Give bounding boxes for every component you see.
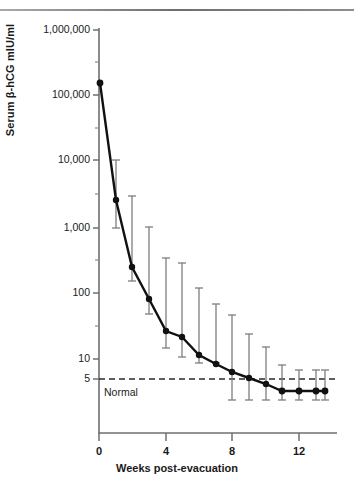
x-axis-title: Weeks post-evacuation: [0, 462, 354, 474]
y-tick-label-10: 10: [0, 352, 90, 364]
normal-threshold-label: Normal: [104, 386, 138, 398]
y-tick-label-100: 100: [0, 286, 90, 298]
y-tick-label-5: 5: [0, 372, 90, 384]
x-tick-label-0: 0: [86, 445, 112, 457]
x-tick-label-4: 4: [153, 445, 179, 457]
x-tick-label-12: 12: [286, 445, 312, 457]
y-axis-title: Serum β-hCG mIU/ml: [4, 0, 16, 165]
figure-panel: 1,000,000 100,000 10,000 1,000 100 10 5 …: [0, 0, 354, 492]
error-bars: [112, 160, 329, 400]
chart-canvas: [0, 0, 354, 492]
x-ticks: [99, 433, 299, 441]
data-line: [100, 83, 325, 391]
x-tick-label-8: 8: [219, 445, 245, 457]
y-tick-label-1000: 1,000: [0, 221, 90, 233]
